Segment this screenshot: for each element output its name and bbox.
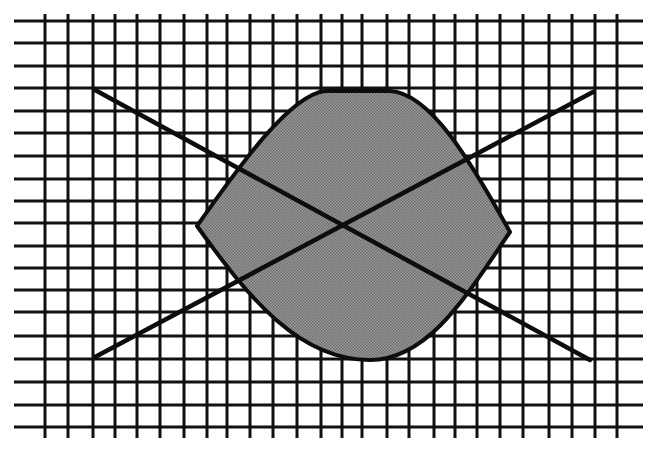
lens-diagram <box>0 0 652 449</box>
shaded-lens-region <box>197 91 510 360</box>
